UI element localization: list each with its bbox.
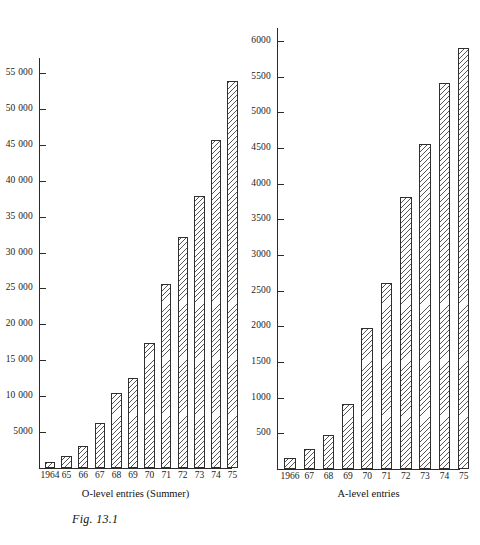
y-tick-label: 1500 [219, 357, 271, 367]
bar [211, 140, 222, 468]
y-tick-mark [40, 324, 46, 325]
y-tick-label: 20 000 [0, 319, 33, 329]
bar [304, 449, 316, 469]
y-tick-label: 2000 [219, 321, 271, 331]
y-tick-mark [40, 288, 46, 289]
figure-caption: Fig. 13.1 [72, 512, 118, 526]
y-tick-mark [40, 217, 46, 218]
bar [323, 435, 335, 469]
y-tick-mark [278, 398, 284, 399]
y-tick-label: 55 000 [0, 68, 33, 78]
x-tick-label: 75 [451, 471, 477, 481]
y-tick-label: 3000 [219, 250, 271, 260]
y-tick-mark [278, 362, 284, 363]
y-tick-label: 35 000 [0, 212, 33, 222]
bar [144, 343, 155, 468]
y-tick-mark [278, 77, 284, 78]
bar [342, 404, 354, 469]
figure-13-1: 500010 00015 00020 00025 00030 00035 000… [0, 0, 480, 545]
bar [439, 83, 451, 469]
y-tick-mark [278, 148, 284, 149]
bar [111, 393, 122, 468]
bar [161, 284, 172, 468]
y-tick-label: 6000 [219, 36, 271, 46]
y-tick-label: 5000 [219, 107, 271, 117]
plot-area-o-level: 500010 00015 00020 00025 00030 00035 000… [0, 0, 245, 545]
bar [45, 462, 56, 468]
y-axis-line-a-level [277, 28, 278, 470]
y-tick-label: 1000 [219, 393, 271, 403]
y-tick-mark [278, 41, 284, 42]
y-tick-mark [40, 396, 46, 397]
y-tick-mark [278, 291, 284, 292]
bar [178, 237, 189, 468]
y-tick-mark [40, 109, 46, 110]
bar [381, 283, 393, 469]
y-tick-mark [40, 73, 46, 74]
y-tick-label: 15 000 [0, 355, 33, 365]
y-tick-mark [40, 145, 46, 146]
chart-o-level: 500010 00015 00020 00025 00030 00035 000… [0, 0, 245, 545]
bar [194, 196, 205, 468]
y-tick-mark [278, 433, 284, 434]
x-tick-label: 75 [220, 470, 246, 480]
x-axis-title-o-level: O-level entries (Summer) [39, 488, 232, 500]
y-tick-label: 40 000 [0, 176, 33, 186]
y-tick-mark [278, 219, 284, 220]
y-tick-label: 4000 [219, 179, 271, 189]
y-tick-mark [40, 360, 46, 361]
x-axis-line-a-level [277, 469, 460, 470]
chart-a-level: 5001000150020002500300035004000450050005… [245, 0, 480, 545]
y-tick-mark [278, 184, 284, 185]
y-tick-label: 30 000 [0, 248, 33, 258]
x-axis-line-o-level [39, 468, 232, 469]
x-axis-title-a-level: A-level entries [277, 488, 460, 500]
plot-area-a-level: 5001000150020002500300035004000450050005… [245, 0, 480, 545]
y-tick-label: 5000 [0, 427, 33, 437]
y-tick-mark [278, 326, 284, 327]
y-tick-mark [40, 432, 46, 433]
bar [227, 81, 238, 468]
y-tick-label: 25 000 [0, 283, 33, 293]
bar [95, 423, 106, 468]
y-tick-label: 3500 [219, 214, 271, 224]
bar [284, 458, 296, 469]
y-tick-label: 50 000 [0, 104, 33, 114]
y-tick-mark [278, 112, 284, 113]
bar [419, 144, 431, 469]
bar [128, 378, 139, 468]
y-tick-mark [40, 253, 46, 254]
y-axis-line-o-level [39, 58, 40, 469]
y-tick-mark [278, 255, 284, 256]
y-tick-mark [40, 181, 46, 182]
bar [61, 456, 72, 468]
y-tick-label: 5500 [219, 72, 271, 82]
bar [400, 197, 412, 469]
bar [458, 48, 470, 469]
y-tick-label: 2500 [219, 286, 271, 296]
bar [78, 446, 89, 468]
y-tick-label: 500 [219, 428, 271, 438]
y-tick-label: 45 000 [0, 140, 33, 150]
bar [361, 328, 373, 469]
y-tick-label: 4500 [219, 143, 271, 153]
y-tick-label: 10 000 [0, 391, 33, 401]
